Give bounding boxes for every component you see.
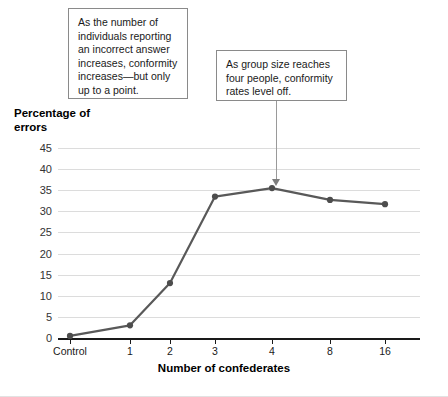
y-axis-tick-label: 45 <box>26 143 52 154</box>
gridline <box>58 296 420 297</box>
x-axis-tick-mark <box>130 340 131 344</box>
gridline <box>58 317 420 318</box>
y-axis-tick-label: 5 <box>26 312 52 323</box>
y-axis-tick-label: 15 <box>26 270 52 281</box>
y-axis-tick-label: 40 <box>26 164 52 175</box>
x-axis-title: Number of confederates <box>0 362 448 374</box>
annotation-leader-line <box>276 101 277 181</box>
y-axis-tick-label: 25 <box>26 227 52 238</box>
y-axis-tick-label: 0 <box>26 333 52 344</box>
gridline <box>58 211 420 212</box>
x-axis-tick-mark <box>215 340 216 344</box>
y-axis-title-line-2: errors <box>14 120 144 134</box>
plot-area <box>58 146 420 339</box>
x-axis-tick-label: 2 <box>167 345 173 357</box>
chart-figure: As the number of individuals reporting a… <box>0 0 448 397</box>
x-axis-tick-mark <box>70 340 71 344</box>
x-axis-tick-label: 4 <box>269 345 275 357</box>
gridline <box>58 275 420 276</box>
x-axis-line <box>58 338 420 340</box>
x-axis-tick-label: 1 <box>127 345 133 357</box>
x-axis-tick-label: 16 <box>379 345 391 357</box>
gridline <box>58 148 420 149</box>
gridline <box>58 169 420 170</box>
annotation-arrow-icon <box>272 179 280 186</box>
annotation-callout-right: As group size reaches four people, confo… <box>216 50 347 101</box>
x-axis-tick-mark <box>170 340 171 344</box>
x-axis-tick-mark <box>330 340 331 344</box>
x-axis-tick-label: Control <box>53 345 87 357</box>
annotation-callout-left: As the number of individuals reporting a… <box>68 8 188 99</box>
gridline <box>58 190 420 191</box>
gridline <box>58 232 420 233</box>
x-axis-tick-label: 3 <box>212 345 218 357</box>
gridline <box>58 254 420 255</box>
y-axis-title-line-1: Percentage of <box>14 106 144 120</box>
x-axis-tick-mark <box>272 340 273 344</box>
y-axis-tick-label: 30 <box>26 206 52 217</box>
y-axis-tick-label: 20 <box>26 249 52 260</box>
y-axis-ticks: 051015202530354045 <box>20 146 52 339</box>
y-axis-tick-label: 10 <box>26 291 52 302</box>
y-axis-title: Percentage of errors <box>14 106 144 134</box>
y-axis-tick-label: 35 <box>26 185 52 196</box>
x-axis-tick-mark <box>385 340 386 344</box>
x-axis-tick-label: 8 <box>327 345 333 357</box>
